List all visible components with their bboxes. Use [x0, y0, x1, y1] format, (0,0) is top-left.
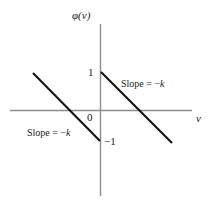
- slope-annotation-lower-prefix: Slope = −: [27, 127, 66, 138]
- slope-annotation-lower-left: Slope = −k: [27, 128, 71, 138]
- slope-annotation-lower-symbol: k: [66, 127, 70, 138]
- plot-svg: [0, 0, 211, 210]
- v-axis-label: v: [196, 113, 201, 124]
- slope-annotation-upper-prefix: Slope = −: [121, 78, 160, 89]
- phi-of-v-axis-label: φ(v): [72, 10, 90, 21]
- slope-annotation-upper-symbol: k: [160, 78, 164, 89]
- origin-label: 0: [87, 112, 93, 123]
- figure-canvas: φ(v) v 1 0 −1 Slope = −k Slope = −k: [0, 0, 211, 210]
- slope-annotation-upper-right: Slope = −k: [121, 79, 165, 89]
- y-tick-label-positive-one: 1: [88, 67, 94, 78]
- y-tick-label-negative-one: −1: [104, 136, 116, 147]
